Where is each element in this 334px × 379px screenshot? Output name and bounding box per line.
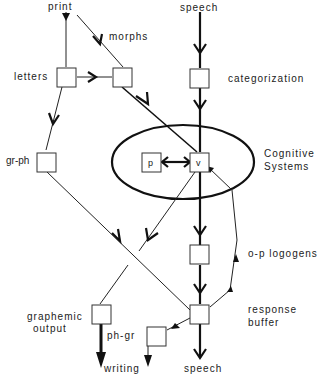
diagram-canvas: print speech morphs letters categorizati… (0, 0, 334, 379)
arrowhead-print (62, 13, 70, 21)
edge-morphs-v (122, 87, 197, 152)
arrowhead-v-graphemic (146, 228, 158, 240)
edge-letters-grph (46, 87, 62, 150)
letters-box (57, 68, 76, 87)
label-morphs: morphs (109, 31, 148, 42)
label-categorization: categorization (228, 73, 304, 84)
categorization-box (190, 69, 209, 88)
edge-v-graphemic-b (100, 265, 128, 304)
arrowhead-morphs (93, 34, 102, 44)
label-letters: letters (14, 71, 48, 82)
arrowhead-morphs-v (136, 92, 148, 104)
phgr-box (147, 327, 166, 346)
label-output: output (33, 323, 67, 334)
label-phgr: ph-gr (107, 330, 135, 341)
arrowhead-phgr-writing (144, 355, 152, 367)
label-print: print (48, 1, 72, 12)
label-v: v (196, 158, 202, 168)
label-response: response (248, 304, 297, 315)
label-writing: writing (103, 363, 140, 374)
label-speech-in: speech (180, 2, 218, 13)
label-grph: gr-ph (6, 155, 29, 166)
arrowhead-feedback-2 (233, 254, 239, 262)
oplogogens-box (190, 245, 209, 264)
graphemic-output-box (92, 305, 111, 324)
label-p: p (148, 158, 154, 168)
edge-response-phgr (167, 318, 190, 330)
label-speech-out: speech (184, 363, 222, 374)
morphs-box (113, 68, 132, 87)
label-systems: Systems (264, 161, 309, 172)
response-buffer-box (190, 305, 209, 324)
label-cognitive: Cognitive (264, 148, 315, 159)
label-graphemic: graphemic (27, 311, 83, 322)
label-oplogogens: o-p logogens (248, 248, 318, 259)
label-buffer: buffer (248, 317, 279, 328)
grph-box (37, 153, 56, 172)
